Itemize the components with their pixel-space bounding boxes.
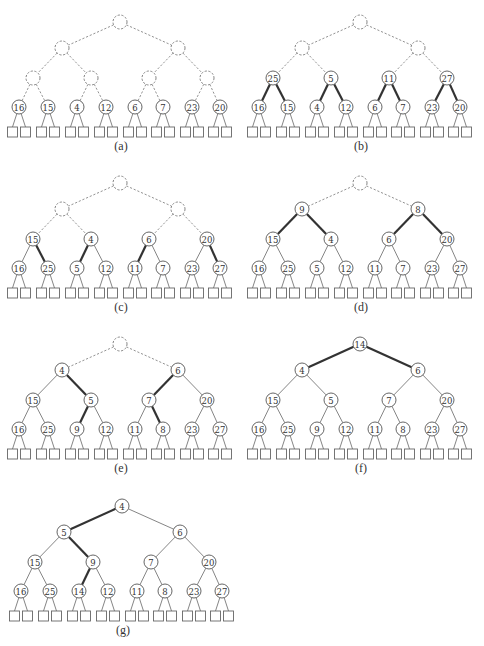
heap-node: 15 — [41, 100, 55, 114]
leaf-edge — [21, 275, 25, 288]
leaf-edge — [348, 114, 352, 127]
node-key: 5 — [314, 264, 319, 274]
external-leaf-node — [66, 449, 76, 459]
external-leaf-node — [50, 127, 60, 137]
node-circle — [113, 15, 127, 29]
heap-node: 4 — [84, 232, 98, 246]
heap-node: 25 — [41, 261, 55, 275]
node-key: 7 — [386, 396, 391, 406]
node-key: 14 — [355, 340, 366, 350]
external-leaf-node — [434, 288, 444, 298]
leaf-edge — [282, 114, 286, 127]
heap-node: 14 — [353, 337, 367, 351]
tree-edge — [394, 375, 413, 395]
leaf-edge — [129, 436, 133, 449]
panel-f: 144615572016259121182327(f) — [248, 337, 472, 475]
node-key: 25 — [43, 425, 54, 435]
leaf-edge — [79, 275, 83, 288]
heap-node: 9 — [310, 422, 324, 436]
external-leaf-node — [306, 127, 316, 137]
external-leaf-node — [392, 449, 402, 459]
node-key: 27 — [442, 74, 453, 84]
heap-node: 15 — [28, 555, 42, 569]
external-leaf-node — [449, 127, 459, 137]
heap-node: 12 — [339, 422, 353, 436]
external-leaf-node — [8, 449, 18, 459]
heap-node: 9 — [295, 202, 309, 216]
leaf-edge — [311, 275, 315, 288]
node-key: 20 — [215, 103, 226, 113]
leaf-edge — [369, 114, 373, 127]
tree-edge — [80, 245, 88, 261]
external-leaf-node — [66, 288, 76, 298]
tree-edge — [94, 84, 103, 101]
external-leaf-node — [335, 288, 345, 298]
leaf-edge — [15, 598, 19, 611]
tree-edge — [38, 375, 57, 395]
leaf-edge — [73, 598, 77, 611]
heap-node: 7 — [396, 261, 410, 275]
node-circle — [171, 41, 185, 55]
leaf-edge — [81, 598, 85, 611]
node-circle — [113, 337, 127, 351]
node-key: 27 — [455, 264, 466, 274]
heap-node: 7 — [156, 261, 170, 275]
empty-node — [171, 202, 185, 216]
leaf-edge — [42, 275, 46, 288]
external-leaf-node — [194, 288, 204, 298]
leaf-edge — [139, 598, 143, 611]
node-key: 8 — [160, 425, 165, 435]
leaf-edge — [462, 275, 466, 288]
node-key: 15 — [268, 235, 279, 245]
tree-edge — [423, 375, 442, 395]
leaf-edge — [311, 436, 315, 449]
leaf-edge — [194, 436, 198, 449]
tree-edge — [334, 84, 343, 101]
external-leaf-node — [261, 127, 271, 137]
external-leaf-node — [68, 611, 78, 621]
external-leaf-node — [165, 449, 175, 459]
leaf-edge — [108, 275, 112, 288]
external-leaf-node — [194, 127, 204, 137]
external-leaf-node — [277, 449, 287, 459]
node-key: 12 — [341, 264, 352, 274]
panel-caption: (e) — [114, 461, 127, 475]
external-leaf-node — [97, 611, 107, 621]
heap-node: 23 — [425, 422, 439, 436]
leaf-edge — [369, 275, 373, 288]
tree-edge — [80, 84, 88, 100]
node-circle — [55, 202, 69, 216]
external-leaf-node — [290, 449, 300, 459]
tree-edge — [308, 25, 353, 45]
tree-edge — [435, 84, 444, 101]
external-leaf-node — [277, 288, 287, 298]
heap-node: 20 — [200, 393, 214, 407]
empty-node — [200, 71, 214, 85]
external-leaf-node — [290, 288, 300, 298]
leaf-edge — [79, 114, 83, 127]
external-leaf-node — [421, 288, 431, 298]
external-leaf-node — [124, 288, 134, 298]
heap-node: 27 — [213, 261, 227, 275]
node-key: 5 — [328, 396, 333, 406]
node-key: 20 — [204, 558, 215, 568]
heap-node: 4 — [310, 100, 324, 114]
tree-edge — [278, 375, 297, 395]
tree-edge — [152, 406, 160, 422]
leaf-edge — [71, 114, 75, 127]
node-key: 4 — [88, 235, 93, 245]
external-leaf-node — [152, 449, 162, 459]
external-leaf-node — [39, 611, 49, 621]
heap-node: 23 — [425, 100, 439, 114]
leaf-edge — [214, 114, 218, 127]
node-key: 20 — [455, 103, 466, 113]
tree-edge — [334, 406, 343, 423]
node-key: 15 — [268, 396, 279, 406]
tree-edge — [185, 537, 204, 557]
heap-node: 5 — [84, 393, 98, 407]
heap-node: 25 — [281, 261, 295, 275]
heap-node: 5 — [70, 261, 84, 275]
tree-edge — [307, 53, 326, 73]
tree-edge — [392, 406, 400, 422]
leaf-edge — [157, 436, 161, 449]
